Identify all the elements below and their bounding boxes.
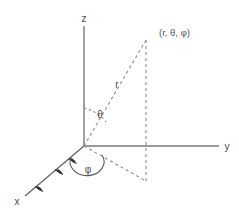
y-axis-label: y (225, 141, 230, 152)
x-axis-tick-cap (38, 188, 41, 190)
radial-line-r (84, 40, 146, 146)
ground-projection-line (84, 146, 146, 181)
theta-angle-label: θ (97, 109, 103, 120)
x-axis-tick-cap (72, 160, 75, 162)
z-axis-label: z (82, 13, 87, 24)
spherical-coordinates-figure: z y x θ φ r (r, θ, φ) (0, 0, 239, 216)
phi-angle-label: φ (85, 164, 92, 175)
diagram-canvas: z y x θ φ r (r, θ, φ) (0, 0, 239, 216)
point-coordinates-label: (r, θ, φ) (159, 27, 190, 38)
x-axis-tick-cap (58, 171, 61, 173)
axes-group (25, 26, 219, 196)
radius-label-r: r (115, 79, 119, 90)
construction-lines-group (84, 40, 146, 181)
x-axis-tick-caps (38, 160, 74, 190)
x-axis-label: x (15, 196, 20, 207)
